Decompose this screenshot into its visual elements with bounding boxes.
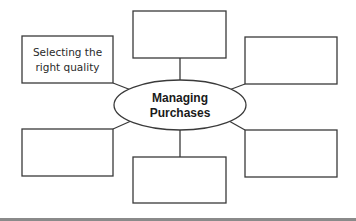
box-top-left-line1: Selecting the [33,46,102,58]
box-bottom[interactable] [133,157,226,203]
box-top-left-line2: right quality [36,61,100,73]
box-top-right[interactable] [245,37,337,84]
box-top[interactable] [133,11,226,58]
center-label-line1: Managing [152,91,208,105]
box-bottom-right[interactable] [245,130,337,177]
center-node: Managing Purchases [114,80,246,130]
box-bottom-left[interactable] [22,129,113,176]
mind-map-diagram: Managing Purchases Selecting the right q… [0,0,356,221]
connector-bottom-right [229,121,245,130]
center-label-line2: Purchases [150,106,211,120]
footer-rule [0,218,356,221]
box-top-left[interactable]: Selecting the right quality [22,36,113,83]
connector-bottom-left [113,121,131,129]
